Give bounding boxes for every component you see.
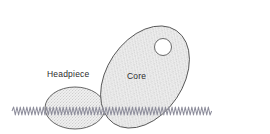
figure-canvas: Headpiece Core (0, 0, 270, 134)
headpiece-label: Headpiece (47, 69, 89, 79)
schematic-svg (0, 0, 270, 134)
core-label: Core (127, 71, 146, 81)
core-pore (155, 39, 172, 56)
